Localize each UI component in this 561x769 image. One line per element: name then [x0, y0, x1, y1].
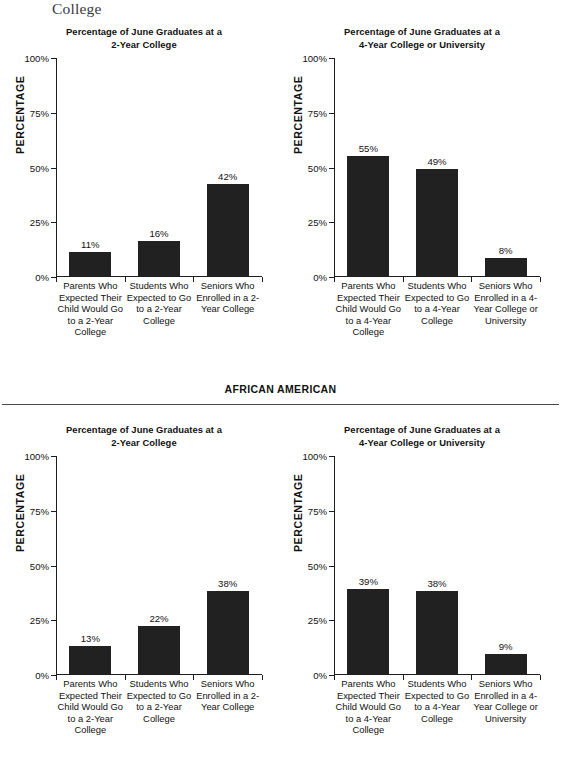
x-axis-category-label: Seniors Who Enrolled in a 2-Year College: [193, 678, 262, 736]
bar: [138, 241, 180, 276]
x-axis-category-label: Students Who Expected to Go to a 4-Year …: [403, 280, 472, 338]
y-axis-tick-label: 100%: [302, 53, 327, 64]
bar-value-label: 55%: [359, 143, 378, 154]
bar-value-label: 16%: [149, 228, 168, 239]
bar: [69, 646, 111, 674]
y-axis-tick: [51, 620, 56, 621]
chart-title-line1: Percentage of June Graduates at a: [344, 26, 500, 37]
bar: [207, 591, 249, 674]
x-axis-tick: [262, 277, 263, 282]
y-axis-tick-label: 25%: [30, 615, 49, 626]
y-axis-tick-label: 25%: [308, 217, 327, 228]
bar: [207, 184, 249, 276]
x-axis-category-label: Seniors Who Enrolled in a 4-Year College…: [471, 280, 540, 338]
y-axis-line: [56, 58, 57, 277]
y-axis-tick: [51, 113, 56, 114]
y-axis-tick: [329, 222, 334, 223]
chart-title: Percentage of June Graduates at a2-Year …: [8, 26, 280, 51]
x-axis-tick: [262, 675, 263, 680]
x-axis-category-label: Parents Who Expected Their Child Would G…: [334, 280, 403, 338]
bar-value-label: 9%: [499, 641, 513, 652]
x-axis-category-label: Students Who Expected to Go to a 2-Year …: [125, 280, 194, 338]
bar: [347, 156, 389, 276]
chart-title-line1: Percentage of June Graduates at a: [66, 26, 222, 37]
x-axis-category-label: Students Who Expected to Go to a 4-Year …: [403, 678, 472, 736]
y-axis-title: PERCENTAGE: [14, 474, 26, 552]
bar: [485, 654, 527, 674]
x-axis-category-label: Students Who Expected to Go to a 2-Year …: [125, 678, 194, 736]
bar-value-label: 42%: [218, 171, 237, 182]
y-axis-tick-label: 100%: [302, 451, 327, 462]
y-axis-tick-label: 50%: [308, 162, 327, 173]
section-label: AFRICAN AMERICAN: [0, 383, 561, 399]
chart-title-line1: Percentage of June Graduates at a: [66, 424, 222, 435]
chart-title-line2: 4-Year College or University: [286, 437, 558, 450]
y-axis-tick-label: 25%: [30, 217, 49, 228]
x-axis-category-label: Parents Who Expected Their Child Would G…: [334, 678, 403, 736]
y-axis-tick: [329, 168, 334, 169]
bar-value-label: 8%: [499, 245, 513, 256]
y-axis-tick: [329, 58, 334, 59]
plot-area: 100%75%50%25%0%39%38%9%: [334, 456, 540, 675]
running-title-fragment: College: [52, 0, 102, 18]
y-axis-tick: [329, 566, 334, 567]
y-axis-line: [334, 456, 335, 675]
y-axis-tick-label: 50%: [30, 162, 49, 173]
y-axis-tick-label: 50%: [308, 560, 327, 571]
chart-top-right: Percentage of June Graduates at a4-Year …: [286, 26, 558, 366]
y-axis-tick: [51, 168, 56, 169]
y-axis-tick-label: 100%: [24, 53, 49, 64]
bar-value-label: 49%: [427, 156, 446, 167]
y-axis-tick: [329, 456, 334, 457]
chart-top-left: Percentage of June Graduates at a2-Year …: [8, 26, 280, 366]
bar-value-label: 11%: [81, 239, 100, 250]
y-axis-tick-label: 0%: [313, 670, 327, 681]
bar-value-label: 22%: [149, 613, 168, 624]
y-axis-tick: [329, 620, 334, 621]
bar-value-label: 13%: [81, 633, 100, 644]
y-axis-tick-label: 100%: [24, 451, 49, 462]
y-axis-tick: [51, 222, 56, 223]
chart-title: Percentage of June Graduates at a4-Year …: [286, 26, 558, 51]
y-axis-tick-label: 75%: [308, 107, 327, 118]
plot-area: 100%75%50%25%0%11%16%42%: [56, 58, 262, 277]
y-axis-tick-label: 0%: [35, 670, 49, 681]
x-axis-tick: [540, 277, 541, 282]
bar: [485, 258, 527, 276]
bar: [69, 252, 111, 276]
x-axis-category-labels: Parents Who Expected Their Child Would G…: [334, 280, 540, 338]
x-axis-line: [334, 276, 540, 277]
y-axis-line: [334, 58, 335, 277]
y-axis-tick-label: 25%: [308, 615, 327, 626]
x-axis-category-label: Parents Who Expected Their Child Would G…: [56, 678, 125, 736]
section-divider-rule: [2, 404, 559, 405]
chart-title-line2: 2-Year College: [8, 437, 280, 450]
bar: [416, 591, 458, 674]
bar-value-label: 38%: [218, 578, 237, 589]
y-axis-line: [56, 456, 57, 675]
y-axis-tick-label: 75%: [308, 505, 327, 516]
x-axis-category-label: Seniors Who Enrolled in a 4-Year College…: [471, 678, 540, 736]
y-axis-tick-label: 75%: [30, 107, 49, 118]
plot-area: 100%75%50%25%0%55%49%8%: [334, 58, 540, 277]
x-axis-category-labels: Parents Who Expected Their Child Would G…: [334, 678, 540, 736]
page-canvas: College AFRICAN AMERICAN Percentage of J…: [0, 0, 561, 769]
bar: [347, 589, 389, 674]
x-axis-line: [56, 674, 262, 675]
y-axis-tick: [329, 113, 334, 114]
x-axis-line: [56, 276, 262, 277]
bar-value-label: 39%: [359, 576, 378, 587]
y-axis-tick: [51, 566, 56, 567]
y-axis-tick-label: 75%: [30, 505, 49, 516]
y-axis-tick: [51, 456, 56, 457]
y-axis-tick-label: 0%: [313, 272, 327, 283]
x-axis-line: [334, 674, 540, 675]
chart-bottom-right: Percentage of June Graduates at a4-Year …: [286, 424, 558, 764]
bar: [138, 626, 180, 674]
y-axis-tick: [329, 511, 334, 512]
x-axis-category-labels: Parents Who Expected Their Child Would G…: [56, 678, 262, 736]
x-axis-category-label: Parents Who Expected Their Child Would G…: [56, 280, 125, 338]
chart-title: Percentage of June Graduates at a2-Year …: [8, 424, 280, 449]
section-header-african-american: AFRICAN AMERICAN: [0, 383, 561, 399]
chart-title-line1: Percentage of June Graduates at a: [344, 424, 500, 435]
